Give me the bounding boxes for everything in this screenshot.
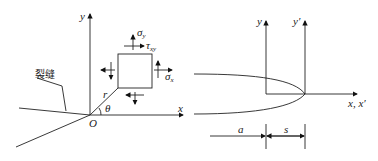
crack-leader-line: [37, 78, 66, 111]
diagram-svg: y x O r θ 裂缝 σy τxy σx y y′ x, x′ a s: [0, 0, 378, 161]
stress-element: [118, 54, 152, 88]
y-prime-axis-label: y′: [292, 15, 301, 27]
x-axis-label: x: [177, 102, 183, 114]
sigma-x-label: σx: [165, 70, 174, 84]
crack-tip-diagram: y x O r θ 裂缝 σy τxy σx y y′ x, x′ a s: [0, 0, 378, 161]
radius-label: r: [103, 88, 108, 100]
dim-a-label: a: [238, 123, 244, 135]
x-axis-right-label: x, x′: [347, 97, 366, 109]
crack-lower-face: [16, 115, 90, 147]
origin-label: O: [89, 117, 97, 129]
dim-s-label: s: [284, 123, 288, 135]
left-diagram: [16, 14, 183, 147]
sigma-y-label: σy: [137, 26, 146, 40]
crack-label: 裂缝: [35, 68, 55, 80]
y-axis-label: y: [79, 10, 85, 22]
right-diagram: [194, 21, 357, 149]
angle-label: θ: [105, 102, 111, 114]
y-axis-right-label: y: [256, 15, 262, 27]
angle-arc: [99, 108, 101, 115]
tau-xy-label: τxy: [146, 39, 157, 53]
crack-upper-face: [19, 108, 90, 115]
